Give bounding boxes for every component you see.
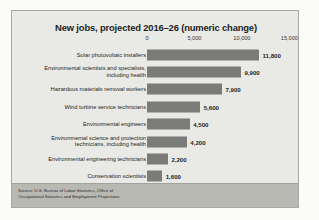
chart-title: New jobs, projected 2016–26 (numeric cha… [12, 22, 299, 33]
bar [147, 84, 222, 95]
x-tick-label: 5,000 [187, 35, 201, 41]
x-tick-label: 15,000 [281, 35, 298, 41]
source-note: Source: U.S. Bureau of Labor Statistics,… [18, 188, 208, 199]
bar-category-label: Wind turbine service technicians [11, 104, 146, 111]
bar-category-label: Environmental science and protection tec… [11, 135, 146, 148]
bar-value-label: 2,200 [171, 156, 186, 163]
bar-row: Environmental engineers4,500 [12, 116, 299, 133]
bar-category-label: Conservation scientists [11, 173, 146, 180]
bar-row: Hazardous materials removal workers7,900 [12, 81, 299, 98]
bar [147, 171, 162, 182]
bar [147, 154, 168, 165]
x-axis: 05,00010,00015,000 [12, 35, 299, 46]
bar [147, 119, 190, 130]
bar [147, 67, 241, 78]
x-tick-label: 10,000 [233, 35, 250, 41]
bar-row: Environmental scientists and specialists… [12, 63, 299, 80]
chart-figure: New jobs, projected 2016–26 (numeric cha… [11, 10, 299, 208]
bar-value-label: 11,800 [263, 51, 281, 58]
bar-category-label: Environmental engineering technicians [11, 156, 146, 163]
bar-rows: Solar photovoltaic installers11,800Envir… [12, 46, 299, 185]
bar-category-label: Environmental engineers [11, 121, 146, 128]
bar-value-label: 1,600 [166, 173, 181, 180]
bar-category-label: Hazardous materials removal workers [11, 86, 146, 93]
bar-row: Wind turbine service technicians5,600 [12, 98, 299, 115]
bar-value-label: 4,500 [193, 121, 208, 128]
bar-row: Environmental engineering technicians2,2… [12, 150, 299, 167]
bar-value-label: 7,900 [226, 86, 241, 93]
bar-row: Environmental science and protection tec… [12, 133, 299, 150]
bar [147, 49, 259, 60]
bar-category-label: Environmental scientists and specialists… [11, 65, 146, 78]
bar-value-label: 5,600 [204, 103, 219, 110]
bar-category-label: Solar photovoltaic installers [11, 51, 146, 58]
x-tick-label: 0 [145, 35, 148, 41]
bar-value-label: 4,200 [190, 138, 205, 145]
source-band: Source: U.S. Bureau of Labor Statistics,… [12, 183, 299, 207]
bar-row: Solar photovoltaic installers11,800 [12, 46, 299, 63]
bar [147, 136, 187, 147]
bar [147, 101, 200, 112]
bar-value-label: 9,900 [244, 69, 259, 76]
